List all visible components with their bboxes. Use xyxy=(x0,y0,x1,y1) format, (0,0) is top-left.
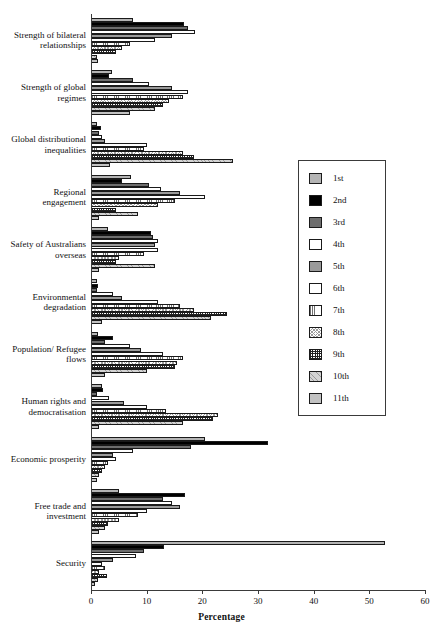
legend-swatch xyxy=(309,173,322,184)
x-tick-label: 20 xyxy=(187,596,217,607)
legend-swatch xyxy=(309,283,322,294)
legend-label: 10th xyxy=(333,371,349,381)
legend-label: 11th xyxy=(333,393,349,403)
legend-item: 2nd xyxy=(299,189,385,211)
legend-item: 11th xyxy=(299,387,385,409)
x-tick xyxy=(369,590,370,594)
legend-swatch xyxy=(309,239,322,250)
legend-label: 4th xyxy=(333,239,345,249)
legend-swatch xyxy=(309,195,322,206)
legend-swatch xyxy=(309,327,322,338)
category-label: Security xyxy=(8,558,86,569)
bar xyxy=(91,268,99,272)
legend-swatch xyxy=(309,305,322,316)
legend-swatch xyxy=(309,217,322,228)
x-tick xyxy=(258,590,259,594)
legend-label: 1st xyxy=(333,173,344,183)
x-tick-label: 40 xyxy=(299,596,329,607)
legend-label: 5th xyxy=(333,261,345,271)
bar xyxy=(91,530,99,534)
x-tick xyxy=(314,590,315,594)
legend-item: 10th xyxy=(299,365,385,387)
legend-item: 8th xyxy=(299,321,385,343)
bar xyxy=(91,163,110,167)
x-tick-label: 0 xyxy=(76,596,106,607)
legend-swatch xyxy=(309,371,322,382)
category-label: Global distributional inequalities xyxy=(8,134,86,155)
legend-item: 3rd xyxy=(299,211,385,233)
legend-label: 9th xyxy=(333,349,345,359)
x-tick xyxy=(425,590,426,594)
bar xyxy=(91,264,155,268)
bar xyxy=(91,216,99,220)
legend-swatch xyxy=(309,349,322,360)
category-label: Human rights and democratisation xyxy=(8,396,86,417)
legend-label: 6th xyxy=(333,283,345,293)
legend-item: 7th xyxy=(299,299,385,321)
bar xyxy=(91,425,99,429)
legend-item: 5th xyxy=(299,255,385,277)
x-tick xyxy=(202,590,203,594)
bar xyxy=(91,111,130,115)
bar xyxy=(91,373,105,377)
bar xyxy=(91,320,102,324)
category-label: Environmental degradation xyxy=(8,292,86,313)
category-label: Free trade and investment xyxy=(8,501,86,522)
bar xyxy=(91,421,183,425)
legend-swatch xyxy=(309,393,322,404)
x-tick-label: 60 xyxy=(410,596,440,607)
category-label: Safety of Australians overseas xyxy=(8,239,86,260)
bar xyxy=(91,59,98,63)
category-label: Regional engagement xyxy=(8,187,86,208)
category-label: Population/ Refugee flows xyxy=(8,344,86,365)
legend-swatch xyxy=(309,261,322,272)
chart-container: Strength of bilateral relationshipsStren… xyxy=(0,0,443,638)
category-label: Strength of global regimes xyxy=(8,82,86,103)
legend-item: 9th xyxy=(299,343,385,365)
legend-label: 3rd xyxy=(333,217,345,227)
bar-group xyxy=(91,437,425,482)
bar-group xyxy=(91,489,425,534)
category-label: Strength of bilateral relationships xyxy=(8,30,86,51)
legend-item: 6th xyxy=(299,277,385,299)
x-tick-label: 50 xyxy=(354,596,384,607)
y-axis-line xyxy=(91,14,92,590)
x-tick-label: 10 xyxy=(132,596,162,607)
bar-group xyxy=(91,541,425,586)
legend-item: 4th xyxy=(299,233,385,255)
legend: 1st2nd3rd4th5th6th7th8th9th10th11th xyxy=(298,160,386,416)
bar xyxy=(91,159,233,163)
x-tick xyxy=(91,590,92,594)
x-tick-label: 30 xyxy=(243,596,273,607)
bar xyxy=(91,316,211,320)
category-axis-labels: Strength of bilateral relationshipsStren… xyxy=(0,0,86,576)
legend-item: 1st xyxy=(299,167,385,189)
bar-group xyxy=(91,70,425,115)
x-tick xyxy=(147,590,148,594)
legend-label: 2nd xyxy=(333,195,347,205)
legend-label: 7th xyxy=(333,305,345,315)
legend-label: 8th xyxy=(333,327,345,337)
category-label: Economic prosperity xyxy=(8,454,86,465)
bar-group xyxy=(91,18,425,63)
x-axis-title: Percentage xyxy=(0,612,443,622)
